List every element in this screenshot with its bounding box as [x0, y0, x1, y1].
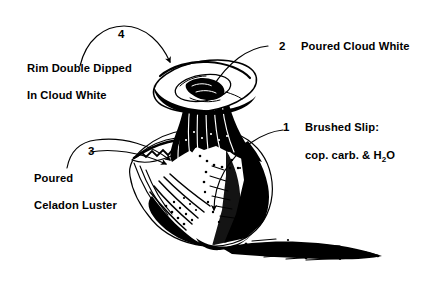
callout-3-line-1: Poured — [34, 173, 73, 184]
callout-number-3: 3 — [88, 146, 94, 158]
callout-4-line-2: In Cloud White — [27, 90, 107, 101]
callout-number-2: 2 — [279, 41, 285, 53]
callout-3-line-2: Celadon Luster — [34, 200, 117, 211]
callout-4-line-1: Rim Double Dipped — [27, 63, 132, 74]
callout-1-line-1: Brushed Slip: — [305, 122, 379, 133]
callout-1-line-2: cop. carb. & H2O — [305, 150, 395, 164]
callout-1-formula-prefix: cop. carb. & H — [305, 149, 382, 161]
callout-2-line-1: Poured Cloud White — [301, 41, 410, 52]
callout-1-formula-suffix: O — [386, 149, 395, 161]
callout-number-1: 1 — [283, 122, 289, 134]
figure-canvas: 4 Rim Double Dipped In Cloud White 2 Pou… — [0, 0, 435, 285]
callout-number-4: 4 — [118, 29, 124, 41]
